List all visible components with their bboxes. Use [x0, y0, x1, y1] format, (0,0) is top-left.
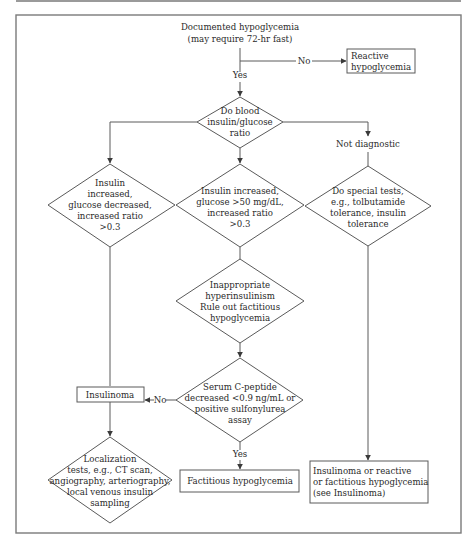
node-ratio: Do blood insulin/glucose ratio — [197, 97, 283, 148]
inap-line-3: Rule out factitious — [200, 302, 280, 312]
inap-line-4: hypoglycemia — [210, 313, 270, 323]
node-insulin-glucose-decreased: Insulin increased, glucose decreased, in… — [48, 164, 175, 247]
node-insulinoma: Insulinoma — [77, 387, 144, 402]
ior-line-3: (see Insulinoma) — [313, 488, 385, 498]
label-no-top: No — [298, 56, 311, 66]
ig50-line-3: increased ratio — [207, 208, 273, 218]
inap-line-2: hyperinsulinism — [205, 291, 275, 301]
ig50-line-4: >0.3 — [230, 219, 251, 229]
igd-line-5: >0.3 — [100, 222, 121, 232]
reactive-line-1: Reactive — [351, 51, 389, 61]
loc-line-1: Localization — [84, 454, 137, 464]
node-inappropriate: Inappropriate hyperinsulinism Rule out f… — [176, 259, 304, 343]
igd-line-2: increased, — [87, 189, 132, 199]
cp-line-3: positive sulfonylurea — [195, 404, 286, 414]
inappropriate-diamond — [176, 259, 304, 343]
reactive-line-2: hypoglycemia — [351, 62, 411, 72]
label-yes-top: Yes — [232, 70, 247, 80]
not-diagnostic-label: Not diagnostic — [336, 139, 400, 149]
st-line-3: tolerance, insulin — [330, 208, 406, 218]
st-line-1: Do special tests, — [332, 186, 404, 196]
loc-line-5: sampling — [90, 498, 130, 508]
ratio-line-2: insulin/glucose — [207, 117, 272, 127]
cp-line-2: decreased <0.9 ng/mL or — [185, 393, 297, 403]
ig50-line-2: glucose >50 mg/dL, — [196, 197, 283, 207]
flowchart: Documented hypoglycemia (may require 72-… — [0, 0, 467, 546]
node-special-tests: Do special tests, e.g., tolbutamide tole… — [305, 166, 431, 246]
edge-ratio-left — [110, 122, 197, 163]
edge-ratio-right — [283, 122, 368, 136]
label-no-cpeptide: No — [154, 395, 167, 405]
st-line-2: e.g., tolbutamide — [331, 197, 405, 207]
label-yes-cpeptide: Yes — [232, 449, 247, 459]
node-insulinoma-or-reactive: Insulinoma or reactive or factitious hyp… — [310, 461, 428, 503]
ior-line-2: or factitious hypoglycemia — [313, 477, 428, 487]
node-factitious: Factitious hypoglycemia — [180, 470, 299, 492]
start-line-1: Documented hypoglycemia — [181, 22, 299, 32]
loc-line-4: local venous insulin — [67, 487, 153, 497]
igd-line-3: glucose decreased, — [68, 200, 151, 210]
node-start: Documented hypoglycemia (may require 72-… — [181, 22, 299, 44]
loc-line-3: angiography, arteriography, — [49, 476, 170, 486]
node-cpeptide: Serum C-peptide decreased <0.9 ng/mL or … — [176, 358, 303, 442]
st-line-4: tolerance — [347, 219, 388, 229]
loc-line-2: tests, e.g., CT scan, — [67, 465, 152, 475]
node-localization: Localization tests, e.g., CT scan, angio… — [48, 437, 172, 523]
igd-line-1: Insulin — [95, 178, 125, 188]
factitious-label: Factitious hypoglycemia — [187, 476, 293, 486]
insulinoma-label: Insulinoma — [86, 390, 134, 400]
cp-line-4: assay — [228, 415, 252, 425]
ig50-line-1: Insulin increased, — [201, 186, 279, 196]
node-reactive: Reactive hypoglycemia — [347, 49, 415, 73]
node-insulin-glucose-50: Insulin increased, glucose >50 mg/dL, in… — [176, 164, 304, 247]
ratio-line-3: ratio — [230, 128, 251, 138]
inap-line-1: Inappropriate — [210, 280, 270, 290]
igd-line-4: increased ratio — [77, 211, 143, 221]
cp-line-1: Serum C-peptide — [203, 382, 277, 392]
start-line-2: (may require 72-hr fast) — [188, 34, 293, 44]
ratio-line-1: Do blood — [221, 106, 260, 116]
ior-line-1: Insulinoma or reactive — [313, 466, 411, 476]
